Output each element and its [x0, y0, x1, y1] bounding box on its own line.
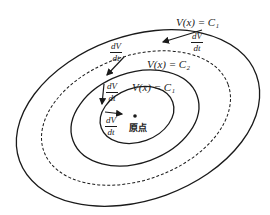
derivative-numerator: dV	[105, 116, 117, 127]
derivative-denominator: dt	[105, 127, 117, 137]
level-set-diagram	[0, 0, 270, 215]
origin-label: 原点	[129, 121, 147, 134]
derivative-label-middle: dV dt	[106, 82, 118, 103]
derivative-label-outer: dV dt	[191, 32, 203, 53]
arrow-inner	[105, 112, 122, 114]
middle-level-label: V(x) = C₂	[147, 59, 190, 70]
derivative-denominator: dt	[191, 43, 203, 53]
derivative-label-dashed: dV dt	[110, 42, 122, 63]
derivative-label-inner: dV dt	[105, 116, 117, 137]
derivative-denominator: dt	[110, 53, 122, 63]
derivative-numerator: dV	[106, 82, 118, 93]
dashed-level-set	[23, 26, 250, 210]
inner-level-label: V(x) = C₁	[132, 82, 175, 93]
outer-level-label: V(x) = C₁	[176, 17, 219, 28]
derivative-denominator: dt	[106, 93, 118, 103]
derivative-numerator: dV	[191, 32, 203, 43]
middle-level-set	[58, 53, 213, 183]
origin-point	[133, 114, 137, 118]
arrow-middle	[102, 84, 104, 104]
derivative-numerator: dV	[110, 42, 122, 53]
